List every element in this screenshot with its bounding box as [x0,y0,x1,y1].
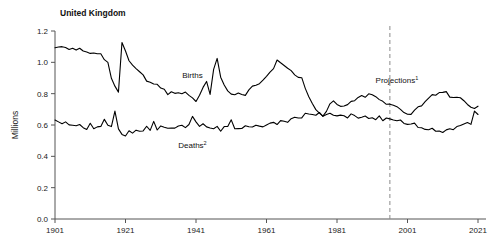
y-tick-label: 1.0 [37,58,49,67]
x-tick-label: 2021 [469,226,487,235]
y-tick-label: 0.8 [37,90,49,99]
x-axis-ticks: 1901192119411961198120012021 [46,219,487,235]
births-deaths-line-chart: United Kingdom Millions 0.00.20.40.60.81… [0,0,500,250]
x-tick-label: 1961 [258,226,276,235]
x-tick-label: 2001 [399,226,417,235]
y-tick-label: 0.4 [37,152,49,161]
y-axis-title: Millions [10,111,20,139]
chart-annotations: BirthsDeaths2Projections1 [178,71,418,150]
chart-container: United Kingdom Millions 0.00.20.40.60.81… [0,0,500,250]
x-tick-label: 1901 [46,226,64,235]
deaths-series-line [55,111,478,136]
births-label: Births [182,71,202,80]
projections-label: Projections1 [376,75,419,85]
y-tick-label: 0.0 [37,215,49,224]
deaths-label: Deaths2 [178,140,206,150]
y-tick-label: 0.6 [37,121,49,130]
x-tick-label: 1981 [328,226,346,235]
chart-title: United Kingdom [60,8,126,18]
y-tick-label: 1.2 [37,27,49,36]
y-tick-label: 0.2 [37,184,49,193]
x-tick-label: 1941 [187,226,205,235]
y-axis-ticks: 0.00.20.40.60.81.01.2 [37,27,55,224]
x-tick-label: 1921 [117,226,135,235]
